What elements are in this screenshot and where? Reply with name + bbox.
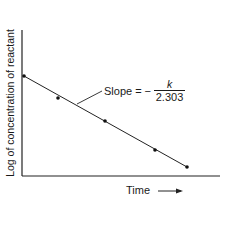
data-point bbox=[22, 74, 26, 78]
arrow-right-icon bbox=[176, 189, 183, 194]
slope-fraction: k 2.303 bbox=[154, 79, 185, 103]
fraction-denominator: 2.303 bbox=[156, 91, 184, 103]
data-point bbox=[103, 119, 107, 123]
y-axis-label: Log of concentration of reactant bbox=[1, 30, 19, 176]
slope-annotation: Slope = − k 2.303 bbox=[104, 79, 185, 103]
x-axis-label: Time bbox=[126, 184, 150, 196]
data-point bbox=[56, 96, 60, 100]
slope-label: Slope bbox=[104, 85, 132, 97]
equals-sign: = bbox=[135, 85, 141, 97]
y-axis-label-text: Log of concentration of reactant bbox=[4, 29, 16, 177]
minus-sign: − bbox=[145, 85, 151, 97]
data-point bbox=[185, 165, 189, 169]
annotation-leader-line bbox=[77, 91, 102, 104]
fraction-numerator: k bbox=[167, 79, 172, 90]
data-point bbox=[153, 148, 157, 152]
